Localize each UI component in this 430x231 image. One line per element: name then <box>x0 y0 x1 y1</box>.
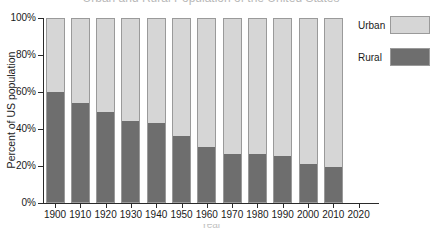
x-axis-tick-mark <box>182 204 183 208</box>
legend-label: Urban <box>358 20 385 31</box>
y-axis-tick-label: 0% <box>0 198 36 208</box>
x-axis-tick-mark <box>232 204 233 208</box>
bar-1900[interactable] <box>46 18 65 203</box>
plot-area <box>44 18 379 203</box>
x-axis-tick-mark <box>283 204 284 208</box>
x-axis-tick-mark <box>156 204 157 208</box>
bar-segment-rural <box>148 123 165 202</box>
bar-1970[interactable] <box>223 18 242 203</box>
y-axis-tick-mark <box>38 129 43 130</box>
bar-segment-rural <box>97 112 114 202</box>
y-axis-tick-mark <box>38 55 43 56</box>
y-axis-tick-label: 40% <box>0 124 36 134</box>
legend-label: Rural <box>358 52 382 63</box>
x-axis-tick-mark <box>257 204 258 208</box>
bar-segment-rural <box>173 136 190 202</box>
y-axis-tick-mark <box>38 18 43 19</box>
bar-1910[interactable] <box>71 18 90 203</box>
legend-swatch <box>390 16 430 34</box>
x-axis-tick-mark <box>207 204 208 208</box>
bar-segment-rural <box>198 147 215 202</box>
bar-segment-rural <box>224 154 241 202</box>
y-axis-tick-mark <box>38 92 43 93</box>
x-axis-tick-mark <box>55 204 56 208</box>
bar-1980[interactable] <box>248 18 267 203</box>
x-axis-title-text: Year <box>0 224 422 230</box>
x-axis-tick-mark <box>308 204 309 208</box>
bar-2000[interactable] <box>299 18 318 203</box>
x-axis-tick-label: 2020 <box>339 209 379 220</box>
bar-1950[interactable] <box>172 18 191 203</box>
bar-segment-rural <box>274 156 291 202</box>
y-axis-tick-label: 80% <box>0 50 36 60</box>
bar-2010[interactable] <box>324 18 343 203</box>
bar-segment-rural <box>122 121 139 202</box>
x-axis-tick-mark <box>359 204 360 208</box>
bar-segment-rural <box>47 92 64 202</box>
x-axis-line <box>43 203 379 204</box>
x-axis-tick-mark <box>131 204 132 208</box>
bar-1960[interactable] <box>197 18 216 203</box>
bar-segment-rural <box>300 164 317 202</box>
bar-1940[interactable] <box>147 18 166 203</box>
y-axis-tick-label: 60% <box>0 87 36 97</box>
x-axis-title-clipped: Year <box>0 224 422 231</box>
bar-1920[interactable] <box>96 18 115 203</box>
legend-item-urban[interactable]: Urban <box>358 16 420 36</box>
x-axis-tick-mark <box>106 204 107 208</box>
bar-segment-rural <box>249 154 266 202</box>
legend-swatch <box>390 48 430 66</box>
y-axis-tick-labels: 0%20%40%60%80%100% <box>0 0 36 231</box>
legend-item-rural[interactable]: Rural <box>358 48 420 68</box>
bar-segment-rural <box>325 167 342 202</box>
y-axis-tick-mark <box>38 166 43 167</box>
y-axis-tick-label: 100% <box>0 13 36 23</box>
x-axis-tick-mark <box>80 204 81 208</box>
y-axis-tick-label: 20% <box>0 161 36 171</box>
bar-1990[interactable] <box>273 18 292 203</box>
x-axis-tick-mark <box>333 204 334 208</box>
y-axis-tick-mark <box>38 203 43 204</box>
bar-1930[interactable] <box>121 18 140 203</box>
bar-segment-rural <box>72 103 89 202</box>
chart-legend: UrbanRural <box>358 16 420 80</box>
